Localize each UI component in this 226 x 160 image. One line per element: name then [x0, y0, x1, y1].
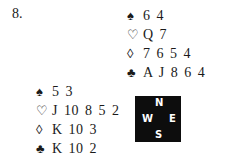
west-diamonds-cards: K 10 3: [52, 122, 97, 137]
west-spades: ♠5 3: [36, 82, 119, 101]
compass-west: W: [142, 114, 153, 124]
problem-number: 8.: [12, 6, 23, 22]
west-clubs: ♣K 10 2: [36, 139, 119, 158]
west-hand: ♠5 3 ♡J 10 8 5 2 ◊K 10 3 ♣K 10 2: [36, 82, 119, 158]
club-icon: ♣: [36, 139, 52, 158]
north-hand: ♠6 4 ♡Q 7 ◊7 6 5 4 ♣A J 8 6 4: [127, 6, 205, 82]
compass-box: N W E S: [135, 96, 181, 142]
compass-south: S: [155, 130, 162, 140]
diamond-icon: ◊: [36, 120, 52, 139]
spade-icon: ♠: [36, 82, 52, 101]
north-hearts: ♡Q 7: [127, 25, 205, 44]
north-spades: ♠6 4: [127, 6, 205, 25]
north-diamonds-cards: 7 6 5 4: [143, 46, 191, 61]
spade-icon: ♠: [127, 6, 143, 25]
north-clubs: ♣A J 8 6 4: [127, 63, 205, 82]
heart-icon: ♡: [36, 101, 52, 120]
north-clubs-cards: A J 8 6 4: [143, 65, 205, 80]
compass-north: N: [155, 98, 163, 108]
heart-icon: ♡: [127, 25, 143, 44]
west-diamonds: ◊K 10 3: [36, 120, 119, 139]
north-spades-cards: 6 4: [143, 8, 164, 23]
diamond-icon: ◊: [127, 44, 143, 63]
compass-east: E: [169, 114, 176, 124]
north-diamonds: ◊7 6 5 4: [127, 44, 205, 63]
west-clubs-cards: K 10 2: [52, 141, 97, 156]
west-hearts: ♡J 10 8 5 2: [36, 101, 119, 120]
north-hearts-cards: Q 7: [143, 27, 167, 42]
west-spades-cards: 5 3: [52, 84, 73, 99]
club-icon: ♣: [127, 63, 143, 82]
west-hearts-cards: J 10 8 5 2: [52, 103, 119, 118]
